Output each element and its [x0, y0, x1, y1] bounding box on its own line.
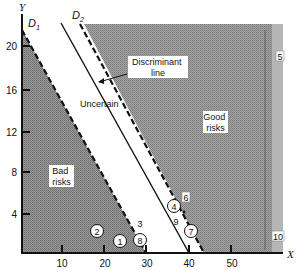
point-7: 7 [188, 227, 193, 237]
x-tick-40: 40 [183, 258, 195, 269]
point-10: 10 [273, 232, 283, 242]
x-tick-30: 30 [141, 258, 153, 269]
x-tick-10: 10 [56, 258, 68, 269]
point-5: 5 [277, 52, 282, 62]
point-1: 1 [117, 237, 122, 247]
point-2: 2 [94, 227, 99, 237]
point-3: 3 [137, 219, 142, 229]
x-tick-50: 50 [226, 258, 238, 269]
y-tick-4: 4 [11, 209, 17, 220]
y-tick-12: 12 [6, 127, 18, 138]
point-8: 8 [137, 236, 142, 246]
uncertain-label: Uncertain [80, 99, 119, 109]
y-tick-20: 20 [6, 41, 18, 52]
y-tick-8: 8 [11, 167, 17, 178]
discriminant-diagram: 20 16 12 8 4 10 20 30 40 50 Y X D1 D2 Di… [0, 0, 298, 270]
x-axis-label: X [286, 248, 295, 260]
d1-label: D1 [28, 17, 40, 31]
x-tick-20: 20 [99, 258, 111, 269]
y-axis-label: Y [19, 1, 27, 13]
bad-risks-label: Bad risks [52, 166, 71, 187]
point-6: 6 [183, 193, 188, 203]
good-risks-label: Good risks [203, 112, 228, 133]
point-4: 4 [171, 202, 176, 212]
point-9: 9 [173, 217, 178, 227]
y-tick-16: 16 [6, 85, 18, 96]
d2-label: D2 [72, 9, 84, 23]
